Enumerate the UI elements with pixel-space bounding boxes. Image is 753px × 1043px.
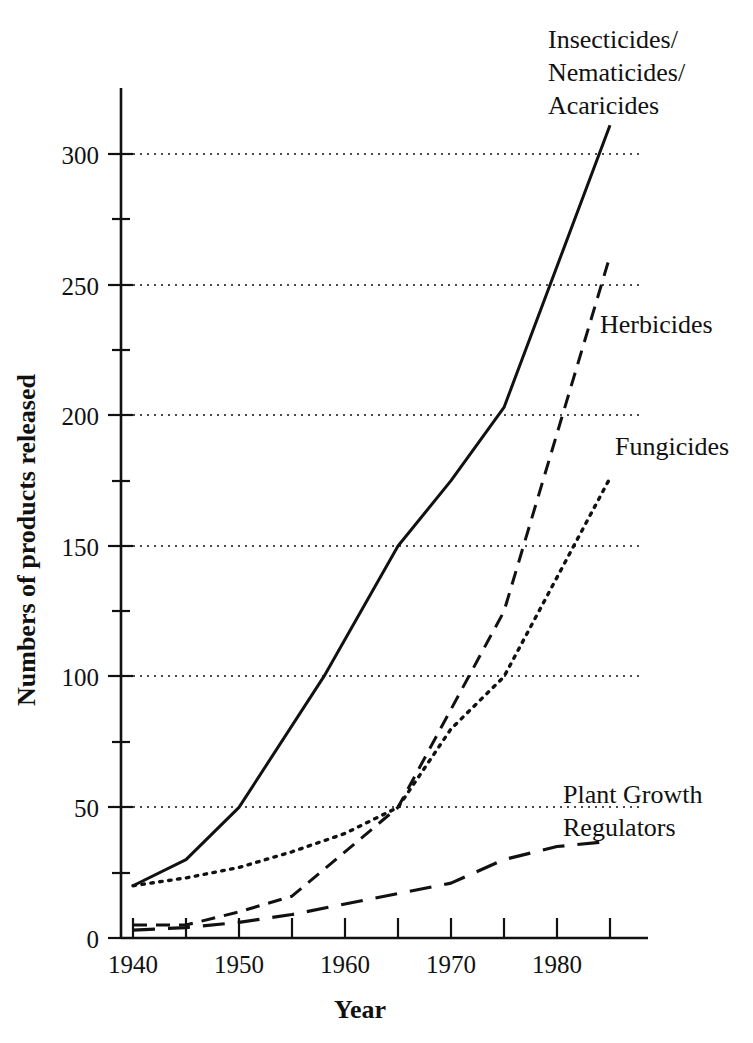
y-axis-title: Numbers of products released (12, 373, 41, 706)
y-tick-label-150: 150 (62, 534, 100, 561)
data-series (133, 125, 610, 930)
series-line-plant-growth-regulators (133, 841, 610, 930)
y-tick-label-200: 200 (62, 403, 100, 430)
series-label-fungicides: Fungicides (615, 432, 729, 461)
series-label-plant-growth-line2: Regulators (563, 813, 676, 842)
chart-figure: 0 50 100 150 200 250 300 1940 1950 1960 … (0, 0, 753, 1043)
x-axis-title: Year (334, 995, 386, 1024)
series-label-insecticides-line3: Acaricides (548, 91, 659, 120)
x-tick-label-1960: 1960 (320, 951, 370, 978)
y-axis-tick-labels: 0 50 100 150 200 250 300 (62, 142, 100, 953)
y-tick-label-0: 0 (87, 926, 100, 953)
y-tick-label-300: 300 (62, 142, 100, 169)
x-tick-label-1970: 1970 (426, 951, 476, 978)
series-line-insecticides-nematicides-acaricides (133, 125, 610, 885)
y-tick-label-100: 100 (62, 664, 100, 691)
series-line-fungicides (133, 478, 610, 886)
chart-canvas: 0 50 100 150 200 250 300 1940 1950 1960 … (0, 0, 753, 1043)
series-label-insecticides-line2: Nematicides/ (548, 58, 686, 87)
x-tick-label-1980: 1980 (532, 951, 582, 978)
x-tick-label-1940: 1940 (108, 951, 158, 978)
series-label-plant-growth-line1: Plant Growth (563, 780, 702, 809)
x-tick-label-1950: 1950 (214, 951, 264, 978)
y-tick-label-50: 50 (74, 795, 99, 822)
series-label-insecticides-line1: Insecticides/ (548, 25, 679, 54)
series-labels: Insecticides/ Nematicides/ Acaricides He… (548, 25, 729, 842)
axes (121, 88, 648, 938)
y-tick-label-250: 250 (62, 273, 100, 300)
series-label-herbicides: Herbicides (600, 310, 713, 339)
x-axis-tick-labels: 1940 1950 1960 1970 1980 (108, 951, 582, 978)
